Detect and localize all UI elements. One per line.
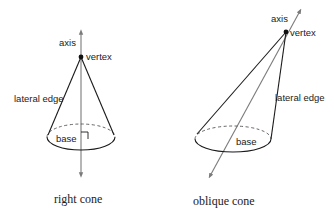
oblique-cone-base-hidden (195, 126, 271, 139)
cone-diagram: axis vertex lateral edge base right cone… (0, 0, 334, 217)
oblique-cone-vertex-label: vertex (290, 27, 316, 38)
right-cone-lateral-edge-label: lateral edge (14, 93, 64, 104)
right-cone-vertex-dot (79, 55, 84, 60)
oblique-cone-lateral-edge-label: lateral edge (275, 92, 325, 103)
right-cone-lateral-edge-right (81, 57, 114, 135)
right-cone-vertex-label: vertex (86, 51, 112, 62)
oblique-cone-caption: oblique cone (193, 194, 255, 208)
oblique-cone-lateral-edge-right (271, 32, 286, 139)
right-cone-base-label: base (56, 133, 77, 144)
right-cone-axis-label: axis (59, 37, 76, 48)
right-cone-figure: axis vertex lateral edge base right cone (14, 32, 115, 206)
right-angle-mark-icon (81, 132, 88, 139)
oblique-cone-base-label: base (236, 136, 257, 147)
oblique-cone-figure: axis vertex lateral edge base oblique co… (193, 11, 325, 208)
oblique-cone-base-front (195, 139, 271, 152)
oblique-cone-axis-label: axis (271, 13, 288, 24)
oblique-cone-vertex-dot (284, 30, 289, 35)
right-cone-caption: right cone (54, 192, 102, 206)
